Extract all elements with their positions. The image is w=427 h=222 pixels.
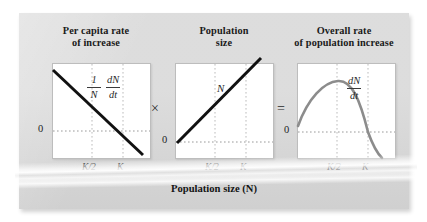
panel-2-title-line2: size bbox=[169, 37, 279, 49]
panel-3-title-line2: of population increase bbox=[281, 37, 407, 49]
panel-1-equation: 1 N dN dt bbox=[87, 74, 120, 100]
panel-1-frac1-numerator: 1 bbox=[90, 74, 97, 85]
panel-2-title: Population size bbox=[169, 25, 279, 48]
panel-3-title-line1: Overall rate bbox=[281, 25, 407, 37]
panel-2-curve bbox=[177, 58, 261, 143]
panel-2-plot-svg bbox=[176, 64, 273, 158]
panel-3-frac-bar bbox=[347, 88, 361, 89]
panel-3-fraction-dn-dt: dN dt bbox=[347, 75, 361, 101]
panel-2-plot-box bbox=[175, 63, 274, 159]
equals-operator: = bbox=[277, 101, 285, 117]
panel-3-xtick-k: K bbox=[362, 161, 368, 172]
panel-2-xtick-k: K bbox=[240, 161, 246, 172]
panel-1-fraction-dn-dt: dN dt bbox=[106, 74, 120, 100]
panel-1-frac2-denominator: dt bbox=[108, 89, 118, 100]
panel-3-xtick-khalf: K/2 bbox=[327, 161, 341, 172]
panel-1-title-line1: Per capita rate bbox=[33, 25, 159, 37]
panel-1-title-line2: of increase bbox=[33, 37, 159, 49]
multiply-operator: × bbox=[151, 101, 159, 117]
logistic-growth-figure: Per capita rate of increase 0 K/2 K 1 N bbox=[0, 0, 427, 222]
panel-3-zero-label: 0 bbox=[284, 124, 289, 135]
panel-1-frac2-numerator: dN bbox=[106, 74, 120, 85]
panel-1-frac2-bar bbox=[106, 87, 120, 88]
panel-1-title: Per capita rate of increase bbox=[33, 25, 159, 48]
figure-caption: Population size (N) bbox=[19, 183, 409, 194]
panel-3-frac-denominator: dt bbox=[349, 90, 359, 101]
panel-3-frac-numerator: dN bbox=[347, 75, 361, 86]
panel-2-title-line1: Population bbox=[169, 25, 279, 37]
panel-3-title: Overall rate of population increase bbox=[281, 25, 407, 48]
panel-1-frac1-denominator: N bbox=[90, 89, 99, 100]
panel-1-xtick-khalf: K/2 bbox=[82, 161, 96, 172]
panel-1-fraction-one-over-n: 1 N bbox=[87, 74, 101, 100]
panel-2-zero-label: 0 bbox=[162, 134, 167, 145]
panel-1-zero-label: 0 bbox=[38, 123, 43, 134]
panel-1-frac1-bar bbox=[87, 87, 101, 88]
panel-3-curve bbox=[298, 81, 382, 158]
panel-3-equation: dN dt bbox=[347, 75, 361, 101]
panel-1-xtick-k: K bbox=[117, 161, 123, 172]
figure-card: Per capita rate of increase 0 K/2 K 1 N bbox=[19, 13, 409, 209]
panel-2-curve-label: N bbox=[217, 82, 224, 94]
panel-2-xtick-khalf: K/2 bbox=[205, 161, 219, 172]
